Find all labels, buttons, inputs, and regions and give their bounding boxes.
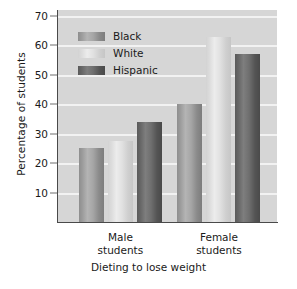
legend: BlackWhiteHispanic [78,28,158,79]
x-axis-category-label-line: students [169,244,269,257]
bar [206,37,231,223]
y-axis-tick-mark [50,192,57,193]
y-axis-tick-mark [50,104,57,105]
x-axis-line [57,222,278,223]
y-axis-tick-label: 40 [18,98,48,110]
legend-swatch-icon [78,32,105,41]
x-axis-category-label: Femalestudents [169,231,269,257]
x-axis-category-label-line: students [70,244,170,257]
y-axis-tick-label: 20 [18,157,48,169]
x-axis-category-label-line: Female [169,231,269,244]
gridline [58,16,277,18]
bar [235,54,260,222]
y-axis-tick-labels: 10203040506070 [18,10,48,222]
y-axis-tick-label: 60 [18,39,48,51]
x-axis-category-label-line: Male [70,231,170,244]
y-axis-tick-mark [50,74,57,75]
legend-item: White [78,45,158,62]
bar [108,141,133,222]
y-axis-tick-mark [50,133,57,134]
bar [137,122,162,222]
bar [79,148,104,222]
y-axis-tick-label: 10 [18,187,48,199]
legend-item: Black [78,28,158,45]
legend-label: Black [113,31,141,42]
y-axis-tick-marks [50,10,57,222]
y-axis-tick-label: 70 [18,10,48,22]
y-axis-tick-label: 30 [18,128,48,140]
x-axis-category-label: Malestudents [70,231,170,257]
y-axis-tick-mark [50,163,57,164]
y-axis-tick-mark [50,15,57,16]
y-axis-tick-label: 50 [18,69,48,81]
x-axis-title: Dieting to lose weight [0,261,297,273]
bar-chart: Percentage of students 10203040506070 Bl… [0,0,297,289]
y-axis-tick-mark [50,45,57,46]
legend-label: White [113,48,144,59]
legend-item: Hispanic [78,62,158,79]
legend-label: Hispanic [113,65,158,76]
bar [177,104,202,222]
legend-swatch-icon [78,66,105,75]
legend-swatch-icon [78,49,105,58]
